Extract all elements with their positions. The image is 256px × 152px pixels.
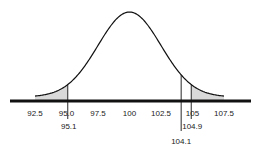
marker-lines	[68, 75, 191, 131]
x-axis-tick-labels: 92.595.097.5100102.5105107.5	[27, 109, 234, 118]
x-tick-label: 95.0	[59, 109, 75, 118]
shaded-region-right	[191, 85, 224, 100]
marker-labels: 95.1104.1104.9	[61, 122, 203, 146]
x-tick-label: 105	[186, 109, 200, 118]
shaded-region-left	[35, 85, 68, 100]
x-tick-label: 100	[123, 109, 137, 118]
bell-curve	[35, 12, 224, 96]
marker-label: 104.1	[171, 137, 192, 146]
normal-distribution-chart: 92.595.097.5100102.5105107.5 95.1104.110…	[0, 0, 256, 152]
shaded-tail-regions	[35, 85, 224, 100]
x-tick-label: 92.5	[27, 109, 43, 118]
marker-label: 95.1	[61, 122, 77, 131]
x-tick-label: 102.5	[151, 109, 172, 118]
x-tick-label: 107.5	[214, 109, 235, 118]
x-tick-label: 97.5	[90, 109, 106, 118]
marker-label: 104.9	[182, 122, 203, 131]
